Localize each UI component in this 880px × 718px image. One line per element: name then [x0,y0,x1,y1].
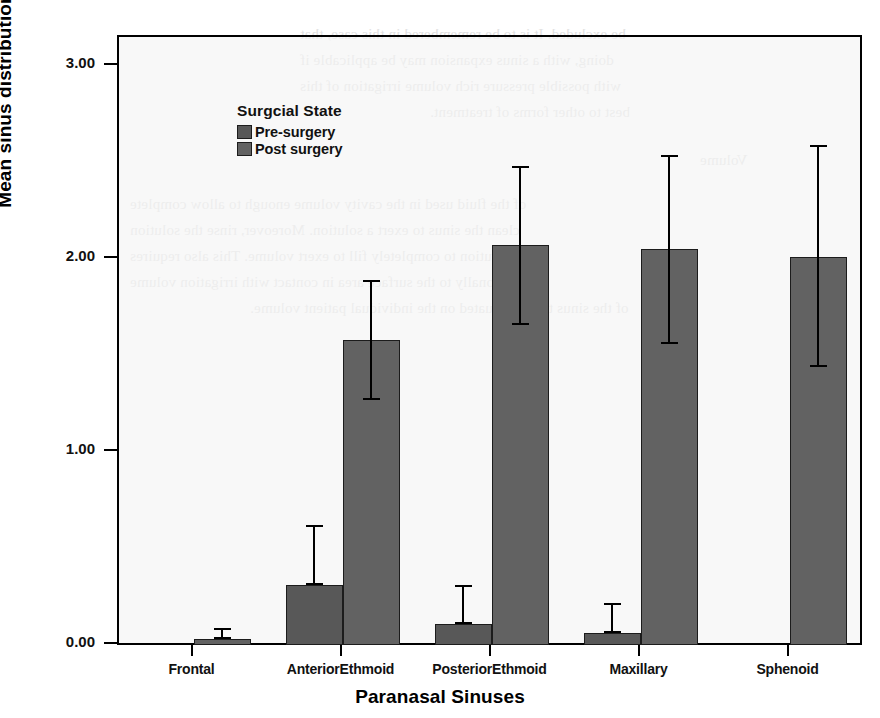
error-bar-cap-top [306,525,323,527]
error-bar-posteriorethmoid-post-surgery [510,166,530,324]
y-tick-mark [104,256,117,258]
error-bar-stem [519,166,521,324]
error-bar-cap-top [214,628,231,630]
error-bar-sphenoid-post-surgery [808,145,828,367]
error-bar-stem [611,603,613,634]
error-bar-cap-bottom [306,583,323,585]
legend-item-post-surgery[interactable]: Post surgery [237,141,342,157]
x-tick-label-frontal: Frontal [168,661,214,677]
x-tick-mark [489,645,491,656]
error-bar-stem [668,155,670,344]
bar-posteriorethmoid-pre-surgery[interactable] [435,624,492,645]
error-bar-cap-bottom [604,631,621,633]
x-tick-mark [191,645,193,656]
error-bar-stem [370,280,372,400]
error-bar-frontal-post-surgery [212,628,232,640]
y-axis-title: Mean sinus distribution [0,0,16,250]
error-bar-cap-bottom [810,365,827,367]
error-bar-cap-bottom [214,637,231,639]
x-tick-mark [787,645,789,656]
error-bar-stem [817,145,819,367]
error-bar-anteriorethmoid-post-surgery [361,280,381,400]
legend-item-pre-surgery[interactable]: Pre-surgery [237,124,342,140]
y-tick-label: 0.00 [0,633,117,650]
y-tick-label: 2.00 [0,247,117,264]
error-bar-stem [462,585,464,624]
legend-swatch-post-surgery [237,142,252,156]
x-tick-label-sphenoid: Sphenoid [756,661,818,677]
y-tick-label: 3.00 [0,54,117,71]
bar-anteriorethmoid-pre-surgery[interactable] [286,585,343,645]
error-bar-cap-top [661,155,678,157]
legend: Surgcial State Pre-surgery Post surgery [237,102,342,157]
legend-swatch-pre-surgery [237,125,252,139]
x-tick-label-maxillary: Maxillary [609,661,667,677]
error-bar-maxillary-post-surgery [659,155,679,344]
error-bar-cap-top [455,585,472,587]
bar-chart-figure: Mean sinus distribution 0.001.002.003.00… [0,0,880,718]
y-tick-label: 1.00 [0,440,117,457]
x-tick-label-posteriorethmoid: PosteriorEthmoid [432,661,546,677]
y-tick-mark [104,642,117,644]
y-tick-mark [104,63,117,65]
error-bar-maxillary-pre-surgery [602,603,622,634]
x-axis-title: Paranasal Sinuses [0,686,880,708]
x-tick-mark [638,645,640,656]
error-bar-cap-top [810,145,827,147]
error-bar-stem [313,525,315,585]
error-bar-cap-bottom [512,323,529,325]
error-bar-cap-top [512,166,529,168]
legend-label-post-surgery: Post surgery [255,141,342,157]
x-tick-label-anteriorethmoid: AnteriorEthmoid [287,661,394,677]
y-tick-mark [104,449,117,451]
error-bar-cap-top [604,603,621,605]
error-bar-cap-bottom [661,342,678,344]
plot-inner [119,37,860,643]
bar-maxillary-pre-surgery[interactable] [584,633,641,645]
legend-label-pre-surgery: Pre-surgery [255,124,335,140]
error-bar-cap-bottom [455,622,472,624]
error-bar-cap-top [363,280,380,282]
bar-frontal-post-surgery[interactable] [194,639,251,645]
error-bar-anteriorethmoid-pre-surgery [304,525,324,585]
error-bar-cap-bottom [363,398,380,400]
x-tick-mark [340,645,342,656]
plot-area: Surgcial State Pre-surgery Post surgery [117,35,862,645]
error-bar-posteriorethmoid-pre-surgery [453,585,473,624]
legend-title: Surgcial State [237,102,342,120]
